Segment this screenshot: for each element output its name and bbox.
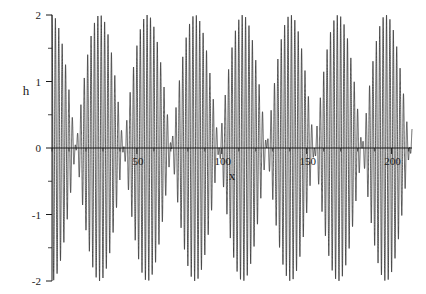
y-tick-label: 2 — [36, 9, 42, 21]
y-tick-label: -1 — [32, 209, 41, 221]
y-tick-label: 1 — [36, 76, 42, 88]
y-tick-label: -2 — [32, 275, 41, 287]
x-axis-label: x — [229, 168, 236, 183]
y-tick-label: 0 — [36, 142, 42, 154]
x-tick-label: 150 — [299, 155, 316, 167]
y-axis-label: h — [23, 83, 30, 98]
beat-waveform-chart: -2-1012 50100150200 h x — [0, 0, 426, 294]
